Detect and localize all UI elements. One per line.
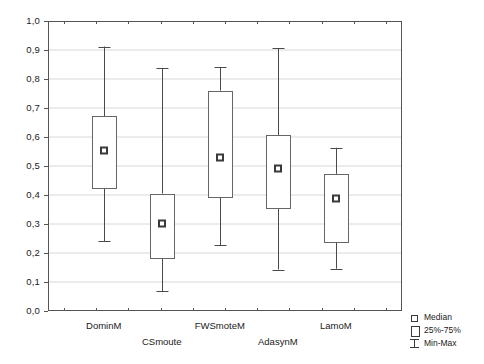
chart-canvas	[0, 0, 484, 364]
box-plot-chart: 1,00,90,80,70,60,50,40,30,20,10,0 DominM…	[0, 0, 484, 364]
x-axis-label-adasynm: AdasynM	[258, 336, 298, 347]
median-marker	[333, 196, 339, 202]
legend-label-minmax: Min-Max	[424, 338, 457, 349]
legend-label-quartiles: 25%-75%	[424, 325, 461, 336]
chart-legend: Median 25%-75% Min-Max	[409, 311, 483, 350]
y-axis-tick-label: 0,9	[6, 44, 40, 55]
legend-item-median: Median	[409, 311, 483, 324]
legend-item-minmax: Min-Max	[409, 337, 483, 350]
legend-item-quartiles: 25%-75%	[409, 324, 483, 337]
x-axis-label-fwsmotem: FWSmoteM	[195, 320, 245, 331]
y-axis-tick-label: 0,4	[6, 189, 40, 200]
box-icon	[409, 325, 421, 336]
median-marker-icon	[409, 312, 421, 323]
y-axis-tick-label: 1,0	[6, 15, 40, 26]
median-marker	[217, 155, 223, 161]
median-marker	[101, 148, 107, 154]
median-marker	[159, 221, 165, 227]
y-axis-tick-label: 0,8	[6, 73, 40, 84]
y-axis-tick-label: 0,1	[6, 276, 40, 287]
x-axis-label-csmoute: CSmoute	[142, 336, 182, 347]
y-axis-tick-label: 0,2	[6, 247, 40, 258]
quartile-box	[209, 92, 233, 198]
quartile-box	[325, 175, 349, 243]
y-axis-tick-label: 0,5	[6, 160, 40, 171]
x-axis-label-lamom: LamoM	[320, 320, 352, 331]
minmax-whisker-icon	[409, 338, 421, 349]
x-axis-label-dominm: DominM	[86, 320, 121, 331]
y-axis-tick-label: 0,0	[6, 305, 40, 316]
y-axis-tick-label: 0,7	[6, 102, 40, 113]
legend-label-median: Median	[424, 312, 452, 323]
y-axis-tick-label: 0,3	[6, 218, 40, 229]
median-marker	[275, 166, 281, 172]
y-axis-tick-label: 0,6	[6, 131, 40, 142]
